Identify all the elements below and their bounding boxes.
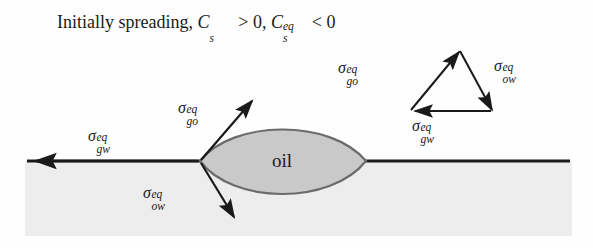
- sigma-glyph-ow-left: σ: [143, 184, 151, 201]
- figure-title: Initially spreading, Cs > 0, Ceqs < 0: [57, 12, 335, 33]
- label-sigma-gw-eq-triangle: σ eq gw: [412, 118, 450, 134]
- surface-tension-diagram: Initially spreading, Cs > 0, Ceqs < 0 oi…: [0, 0, 593, 248]
- label-sigma-go-eq-triangle: σ eq go: [338, 60, 376, 76]
- title-var2-sup: eq: [283, 20, 294, 32]
- sigma-sub-go-left: go: [186, 116, 198, 128]
- sigma-sup-ow-triangle: eq: [502, 62, 513, 74]
- sigma-sup-go-triangle: eq: [346, 64, 357, 76]
- sigma-sub-gw-triangle: gw: [420, 134, 433, 146]
- label-sigma-ow-eq-left: σ eq ow: [143, 185, 181, 201]
- sigma-sub-go-triangle: go: [346, 76, 358, 88]
- triangle-edge-sigma-go: [411, 52, 459, 110]
- sigma-sup-ow-left: eq: [151, 189, 162, 201]
- label-sigma-ow-eq-triangle: σ eq ow: [494, 58, 532, 74]
- sigma-sup-gw-left: eq: [96, 132, 107, 144]
- sigma-sub-ow-triangle: ow: [502, 74, 515, 86]
- title-var2: C: [271, 12, 283, 32]
- sigma-sub-ow-left: ow: [151, 201, 164, 213]
- title-separator: ,: [262, 12, 267, 32]
- sigma-glyph-gw-triangle: σ: [412, 117, 420, 134]
- sigma-glyph-ow-triangle: σ: [494, 57, 502, 74]
- sigma-sup-gw-triangle: eq: [420, 122, 431, 134]
- title-var1-sub: s: [209, 32, 213, 44]
- sigma-sup-go-left: eq: [186, 104, 197, 116]
- title-var2-sub: s: [283, 32, 287, 44]
- oil-region-label: oil: [272, 150, 292, 172]
- title-relation1: > 0: [238, 12, 262, 32]
- title-relation2: < 0: [312, 12, 336, 32]
- title-prefix: Initially spreading,: [57, 12, 193, 32]
- diagram-canvas: [0, 0, 593, 248]
- title-var1: C: [197, 12, 209, 32]
- sigma-glyph-go-triangle: σ: [338, 59, 346, 76]
- sigma-glyph-go-left: σ: [178, 99, 186, 116]
- sigma-glyph-gw-left: σ: [88, 127, 96, 144]
- label-sigma-gw-eq-left: σ eq gw: [88, 128, 126, 144]
- sigma-sub-gw-left: gw: [96, 144, 109, 156]
- triangle-edge-sigma-ow: [460, 51, 492, 110]
- label-sigma-go-eq-left: σ eq go: [178, 100, 216, 116]
